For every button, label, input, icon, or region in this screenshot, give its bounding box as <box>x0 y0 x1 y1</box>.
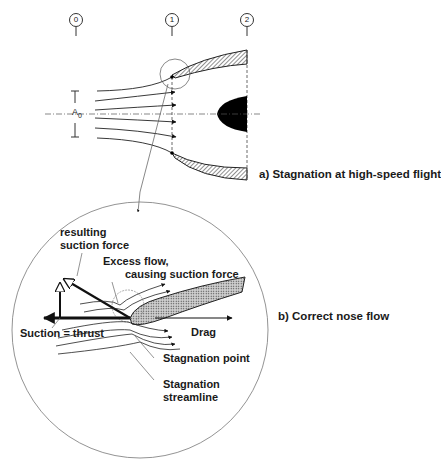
label-stagnation-point: Stagnation point <box>163 352 250 365</box>
station-markers <box>76 27 247 36</box>
area-label: A0 <box>72 107 82 120</box>
label-drag: Drag <box>191 326 216 339</box>
label-suction-thrust: Suction = thrust <box>20 327 104 340</box>
label-excess-flow: Excess flow, causing suction force <box>103 255 239 280</box>
caption-part-a: a) Stagnation at high-speed flight <box>259 168 441 181</box>
nacelle-lower-wall <box>172 153 247 180</box>
station-2-marker: 2 <box>240 13 254 27</box>
streamlines-a <box>95 77 176 153</box>
label-resulting-suction-force: resulting suction force <box>60 226 129 251</box>
station-0-marker: 0 <box>69 13 83 27</box>
caption-part-b: b) Correct nose flow <box>278 310 389 323</box>
nacelle-upper-wall <box>172 50 247 78</box>
station-1-marker: 1 <box>165 13 179 27</box>
label-stagnation-streamline: Stagnation streamline <box>163 378 220 403</box>
